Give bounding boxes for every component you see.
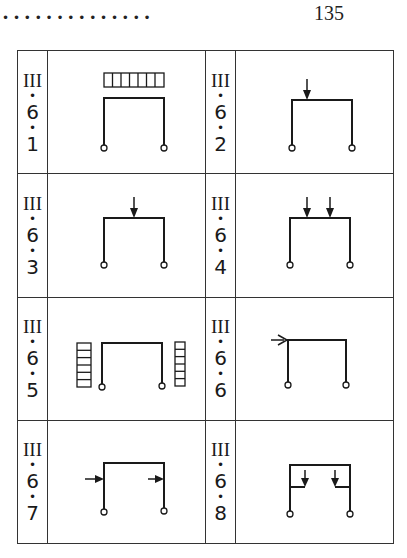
page-header: • • • • • • • • • • • • • • 135 [0,0,407,30]
case-label-III-6-7: III • 6 • 7 [18,420,48,543]
page-number: 135 [314,2,344,25]
diagram-distributed-top-load [48,51,206,174]
frame-center-load-diagram [52,180,202,290]
frame-distributed-load-diagram [52,57,202,167]
frame-point-load-diagram [240,57,390,167]
diagram-brackets-with-loads [236,420,394,543]
frame-lateral-loads-diagram [52,304,202,414]
case-label-III-6-6: III • 6 • 6 [206,297,236,420]
diagram-point-load-center [48,174,206,297]
case-label-III-6-8: III • 6 • 8 [206,420,236,543]
table-row: III • 6 • 5 [18,297,394,420]
case-label-III-6-5: III • 6 • 5 [18,297,48,420]
table-row: III • 6 • 3 III • 6 • [18,174,394,297]
diagram-horizontal-loads-on-columns [48,420,206,543]
frame-bracket-loads-diagram [240,427,390,537]
case-label-III-6-2: III • 6 • 2 [206,51,236,174]
table-row: III • 6 • 1 [18,51,394,174]
diagram-two-point-loads [236,174,394,297]
case-label-III-6-3: III • 6 • 3 [18,174,48,297]
diagram-lateral-distributed-loads [48,297,206,420]
frame-load-cases-table: III • 6 • 1 [17,50,394,544]
diagram-horizontal-top-load [236,297,394,420]
frame-two-loads-diagram [240,180,390,290]
table-row: III • 6 • 7 III • [18,420,394,543]
case-label-III-6-4: III • 6 • 4 [206,174,236,297]
frame-column-loads-diagram [52,427,202,537]
diagram-point-load-left [236,51,394,174]
case-label-III-6-1: III • 6 • 1 [18,51,48,174]
frame-horizontal-load-diagram [240,304,390,414]
dot-leader: • • • • • • • • • • • • • • [2,11,151,25]
